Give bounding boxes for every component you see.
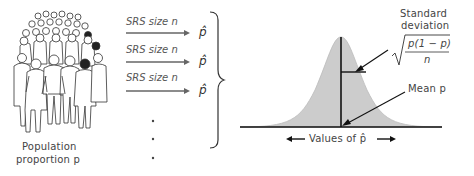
sd-formula-denominator: n [424, 54, 431, 65]
sd-label-line2: deviation [401, 20, 449, 31]
sampling-distribution-diagram: Population proportion p SRS size n SRS s… [0, 0, 474, 176]
axis-label: Values of p̂ [309, 133, 366, 144]
phat-result-3: p̂ [199, 83, 207, 97]
phat-result-2: p̂ [199, 54, 207, 68]
mean-label: Mean p [408, 83, 446, 94]
phat-result-1: p̂ [199, 25, 207, 39]
curly-brace-icon [210, 12, 224, 148]
sd-label-line1: Standard [400, 8, 447, 19]
sd-formula-numerator: p(1 − p) [408, 38, 451, 49]
ellipsis-dots [152, 120, 154, 159]
